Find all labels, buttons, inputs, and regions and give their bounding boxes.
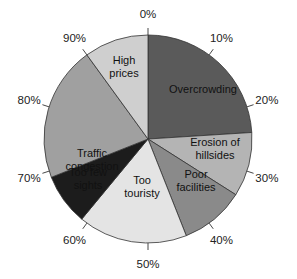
tick-mark (247, 105, 254, 107)
tick-label: 50% (136, 258, 159, 270)
tick-label: 30% (255, 172, 278, 184)
tick-label: 10% (210, 32, 233, 44)
tick-label: 90% (63, 32, 86, 44)
tick-mark (83, 223, 87, 229)
tick-mark (209, 49, 213, 55)
slice-label: Erosion ofhillsides (190, 136, 240, 161)
tick-mark (42, 171, 49, 173)
slice-label: Highprices (109, 54, 139, 79)
tick-mark (42, 105, 49, 107)
tick-mark (247, 171, 254, 173)
tick-label: 20% (255, 94, 278, 106)
slice-label: Overcrowding (169, 83, 237, 95)
tick-label: 0% (140, 8, 157, 20)
tick-label: 60% (63, 234, 86, 246)
pie-chart: 0%10%20%30%40%50%60%70%80%90% Overcrowdi… (0, 0, 297, 279)
tick-label: 70% (18, 172, 41, 184)
tick-label: 40% (210, 234, 233, 246)
tick-mark (83, 49, 87, 55)
tick-label: 80% (18, 94, 41, 106)
tick-mark (209, 223, 213, 229)
